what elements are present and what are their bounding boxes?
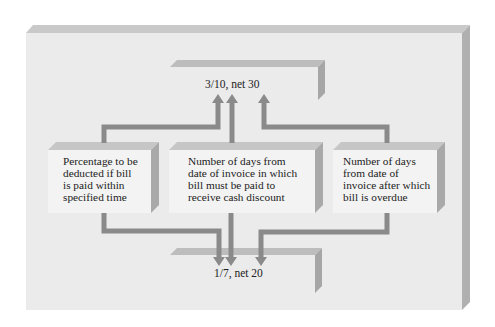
box-net-days-text: Number of days from date of invoice afte… — [343, 155, 430, 203]
box-discount-days-text: Number of days from date of invoice in w… — [188, 155, 297, 203]
box-percentage-text: Percentage to be deducted if bill is pai… — [63, 155, 138, 203]
top-credit-term: 3/10, net 30 — [205, 78, 260, 90]
bottom-credit-term: 1/7, net 20 — [214, 267, 263, 279]
